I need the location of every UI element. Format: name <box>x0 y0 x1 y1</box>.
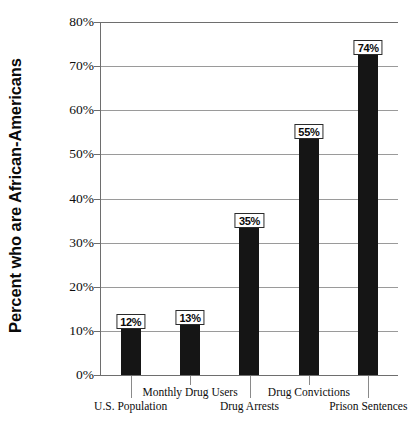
y-tick-mark <box>94 375 101 376</box>
bar <box>358 48 378 375</box>
bar <box>299 132 319 375</box>
y-tick-label: 40% <box>34 192 94 206</box>
bar-slot: 13% <box>160 22 219 375</box>
x-tick-mark <box>190 376 191 385</box>
bar <box>239 221 259 375</box>
bar-chart: Percent who are African-Americans 0%10%2… <box>0 0 412 432</box>
y-axis-title: Percent who are African-Americans <box>0 0 30 390</box>
bar-value-label: 55% <box>294 124 323 139</box>
y-axis-title-text: Percent who are African-Americans <box>6 58 25 333</box>
bar-slot: 35% <box>220 22 279 375</box>
y-tick-mark <box>94 110 101 111</box>
y-tick-label: 80% <box>34 15 94 29</box>
bar <box>180 318 200 375</box>
x-tick-mark <box>309 376 310 385</box>
y-tick-label: 20% <box>34 280 94 294</box>
y-tick-label: 10% <box>34 324 94 338</box>
y-tick-label: 60% <box>34 103 94 117</box>
y-tick-mark <box>94 66 101 67</box>
category-label: Drug Arrests <box>185 400 315 413</box>
y-tick-mark <box>94 287 101 288</box>
category-label: Drug Convictions <box>244 386 374 399</box>
y-tick-label: 50% <box>34 147 94 161</box>
bar <box>121 322 141 375</box>
y-tick-mark <box>94 243 101 244</box>
category-label: Prison Sentences <box>303 400 412 413</box>
y-tick-mark <box>94 22 101 23</box>
category-label: Monthly Drug Users <box>125 386 255 399</box>
bar-slot: 12% <box>101 22 160 375</box>
y-tick-label: 70% <box>34 59 94 73</box>
bar-slot: 74% <box>339 22 398 375</box>
y-tick-mark <box>94 331 101 332</box>
bar-value-label: 13% <box>176 310 205 325</box>
plot-area: 12%13%35%55%74% <box>101 22 398 375</box>
y-tick-mark <box>94 199 101 200</box>
bar-value-label: 12% <box>116 314 145 329</box>
y-tick-mark <box>94 154 101 155</box>
bar-value-label: 35% <box>235 213 264 228</box>
bar-slot: 55% <box>279 22 338 375</box>
y-tick-label: 30% <box>34 236 94 250</box>
bar-value-label: 74% <box>354 40 383 55</box>
category-label: U.S. Population <box>66 400 196 413</box>
y-tick-label: 0% <box>34 368 94 382</box>
